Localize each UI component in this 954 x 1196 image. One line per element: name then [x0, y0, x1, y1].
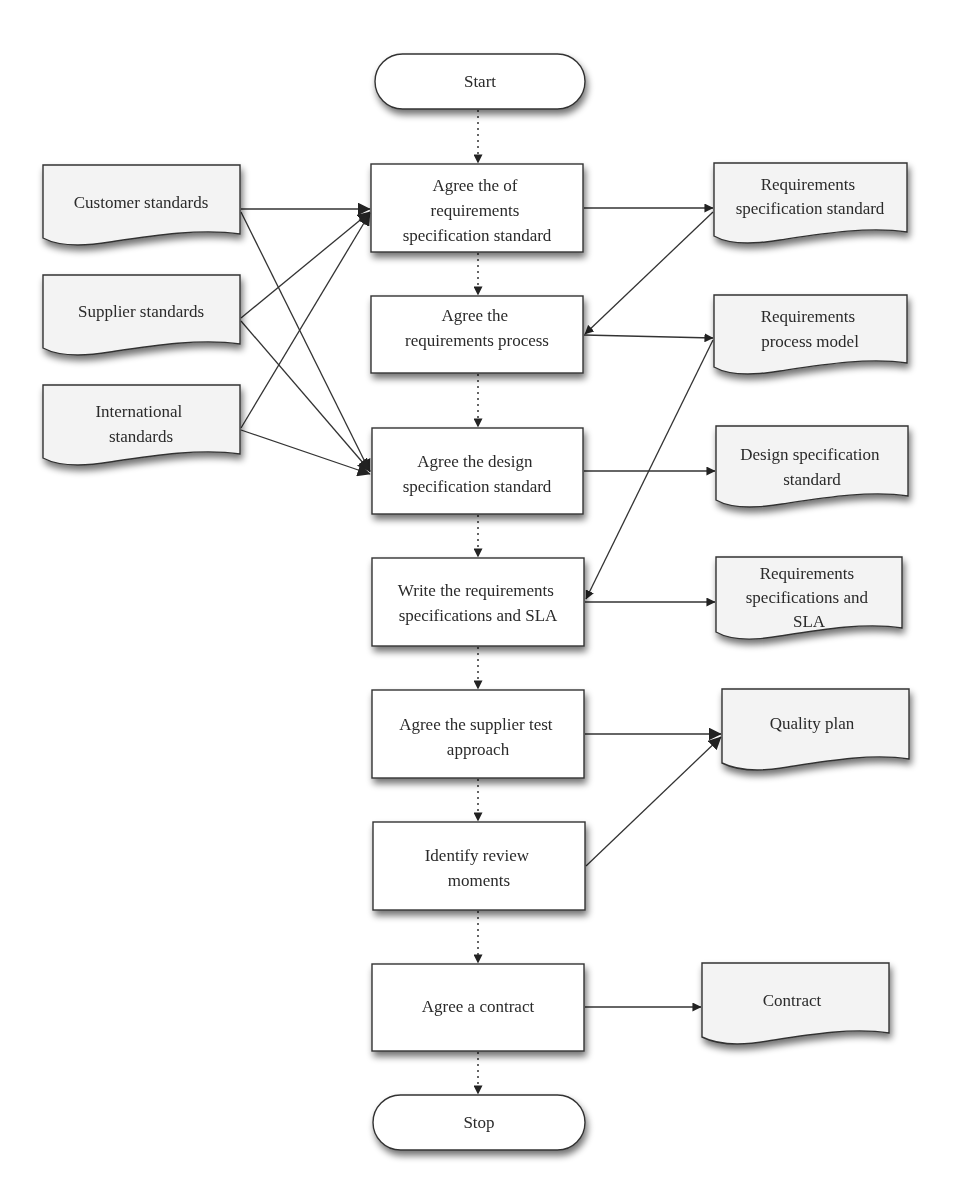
edge-in2-p1 [241, 212, 370, 318]
input-document-line: standards [109, 427, 173, 446]
process-step-3-line: specification standard [403, 477, 552, 496]
output-document-quality-plan[interactable]: Quality plan [722, 689, 909, 770]
process-step-3[interactable]: Agree the design specification standard [372, 428, 583, 514]
input-document-supplier-standards[interactable]: Supplier standards [43, 275, 240, 355]
input-document-line: Customer standards [74, 193, 209, 212]
process-step-1-line: specification standard [403, 226, 552, 245]
process-step-6-line: moments [448, 871, 510, 890]
process-step-6[interactable]: Identify review moments [373, 822, 585, 910]
edge-p6-out5 [586, 737, 721, 866]
input-document-line: Supplier standards [78, 302, 204, 321]
process-step-7[interactable]: Agree a contract [372, 964, 584, 1051]
edge-p2-out2 [584, 335, 713, 338]
terminal-start[interactable]: Start [375, 54, 585, 109]
terminal-start-label: Start [464, 72, 496, 91]
output-document-requirements-process-model[interactable]: Requirements process model [714, 295, 907, 374]
output-document-contract[interactable]: Contract [702, 963, 889, 1044]
output-document-requirements-specifications-and-sla[interactable]: Requirements specifications and SLA [716, 557, 902, 639]
output-document-line: specifications and [746, 588, 869, 607]
process-step-2-line: requirements process [405, 331, 549, 350]
input-document-international-standards[interactable]: International standards [43, 385, 240, 465]
svg-text:Supplier standards: Supplier standards [78, 302, 204, 321]
output-document-line: standard [783, 470, 841, 489]
output-document-line: Requirements [761, 307, 855, 326]
output-document-requirements-specification-standard[interactable]: Requirements specification standard [714, 163, 907, 243]
process-step-1-line: requirements [431, 201, 520, 220]
output-document-line: Quality plan [770, 714, 855, 733]
process-step-5-line: approach [447, 740, 510, 759]
svg-text:Customer standards: Customer standards [74, 193, 209, 212]
terminal-stop-label: Stop [463, 1113, 494, 1132]
input-document-line: International [95, 402, 182, 421]
process-step-1-line: Agree the of [432, 176, 517, 195]
process-step-5-line: Agree the supplier test [399, 715, 553, 734]
process-step-7-line: Agree a contract [422, 997, 535, 1016]
edge-out1-p2 [585, 212, 713, 334]
process-step-4-line: Write the requirements [398, 581, 554, 600]
process-step-1[interactable]: Agree the of requirements specification … [371, 164, 583, 252]
process-step-5[interactable]: Agree the supplier test approach [372, 690, 584, 778]
output-document-line: specification standard [736, 199, 885, 218]
process-step-4-line: specifications and SLA [399, 606, 558, 625]
edge-in1-p3 [241, 212, 370, 472]
input-document-customer-standards[interactable]: Customer standards [43, 165, 240, 245]
process-step-6-line: Identify review [425, 846, 530, 865]
output-document-line: process model [761, 332, 859, 351]
svg-text:Quality plan: Quality plan [770, 714, 855, 733]
output-document-line: Requirements [761, 175, 855, 194]
output-document-design-specification-standard[interactable]: Design specification standard [716, 426, 908, 507]
process-step-2-line: Agree the [442, 306, 509, 325]
output-document-line: Design specification [740, 445, 880, 464]
edge-in3-p3 [241, 430, 370, 474]
flowchart-canvas: Start Stop Agree the of requirements spe… [0, 0, 954, 1196]
process-step-3-line: Agree the design [417, 452, 533, 471]
process-step-4[interactable]: Write the requirements specifications an… [372, 558, 584, 646]
process-step-2[interactable]: Agree the requirements process [371, 296, 583, 373]
svg-text:Contract: Contract [763, 991, 822, 1010]
output-document-line: Requirements [760, 564, 854, 583]
output-document-line: Contract [763, 991, 822, 1010]
svg-text:Agree a contract: Agree a contract [422, 997, 535, 1016]
output-document-line: SLA [793, 612, 826, 631]
terminal-stop[interactable]: Stop [373, 1095, 585, 1150]
edge-out2-p4 [586, 340, 713, 599]
